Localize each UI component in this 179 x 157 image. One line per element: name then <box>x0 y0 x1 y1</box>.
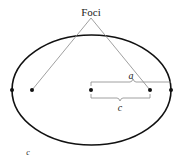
focal-distance-label: c <box>118 102 123 113</box>
stray-c-label: c <box>26 148 30 157</box>
left-vertex-point <box>10 88 14 92</box>
foci-label: Foci <box>81 6 101 18</box>
foci-pointer-left <box>32 18 91 90</box>
right-focus-point <box>148 88 152 92</box>
center-point <box>89 88 93 92</box>
left-focus-point <box>30 88 34 92</box>
semi-major-label: a <box>129 70 134 81</box>
ellipse-diagram: Foci a c c <box>0 0 179 157</box>
foci-pointer-right <box>91 18 150 90</box>
right-vertex-point <box>169 88 173 92</box>
brace-c <box>91 94 150 101</box>
